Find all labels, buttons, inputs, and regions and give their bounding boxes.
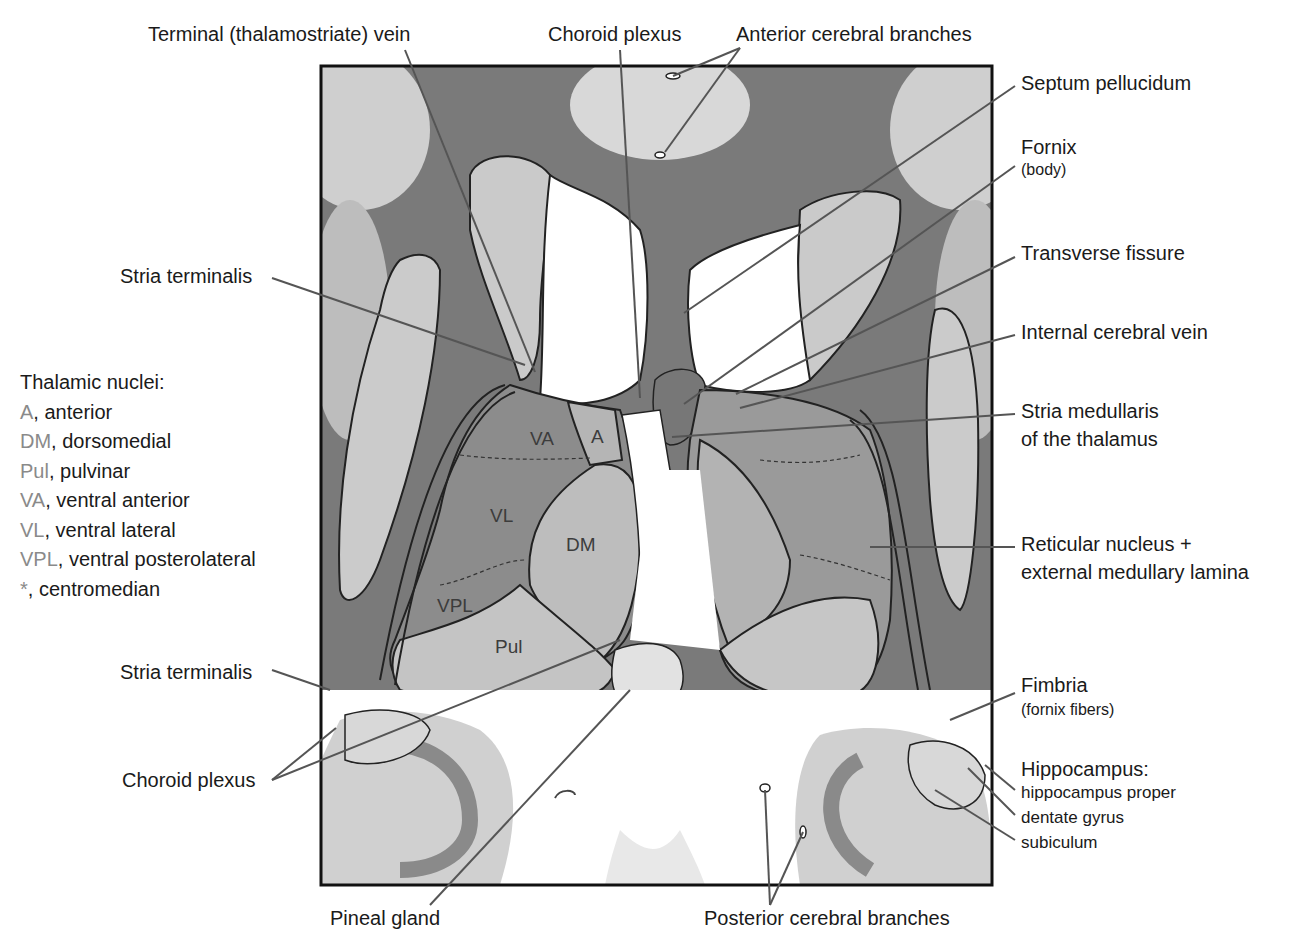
label-hippocampus: Hippocampus: (1021, 757, 1149, 781)
label-posterior-cerebral-branches: Posterior cerebral branches (704, 906, 950, 930)
label-subiculum: subiculum (1021, 833, 1098, 853)
label-reticular-2: external medullary lamina (1021, 560, 1249, 584)
legend-item-va: VA, ventral anterior (20, 486, 256, 516)
label-stria-terminalis-lower: Stria terminalis (120, 660, 252, 684)
label-pineal-gland: Pineal gland (330, 906, 440, 930)
legend-item-vpl: VPL, ventral posterolateral (20, 545, 256, 575)
label-terminal-vein: Terminal (thalamostriate) vein (148, 22, 410, 46)
anatomy-figure: VA A VL DM VPL Pul Terminal (thalamostri… (0, 0, 1306, 944)
label-hippocampus-proper: hippocampus proper (1021, 783, 1176, 803)
label-stria-medullaris-2: of the thalamus (1021, 427, 1158, 451)
thalamic-nuclei-legend: Thalamic nuclei: A, anterior DM, dorsome… (20, 368, 256, 604)
label-septum-pellucidum: Septum pellucidum (1021, 71, 1191, 95)
label-fornix: Fornix (1021, 135, 1077, 159)
nucleus-label-vpl: VPL (437, 595, 473, 617)
label-internal-cerebral-vein: Internal cerebral vein (1021, 320, 1208, 344)
legend-item-vl: VL, ventral lateral (20, 516, 256, 546)
label-fimbria-sub: (fornix fibers) (1021, 700, 1114, 720)
legend-item-a: A, anterior (20, 398, 256, 428)
legend-item-pul: Pul, pulvinar (20, 457, 256, 487)
label-dentate-gyrus: dentate gyrus (1021, 808, 1124, 828)
label-anterior-cerebral-branches: Anterior cerebral branches (736, 22, 972, 46)
nucleus-label-va: VA (530, 428, 554, 450)
legend-item-centromedian: *, centromedian (20, 575, 256, 605)
nucleus-label-vl: VL (490, 505, 513, 527)
legend-item-dm: DM, dorsomedial (20, 427, 256, 457)
label-stria-terminalis-upper: Stria terminalis (120, 264, 252, 288)
nucleus-label-dm: DM (566, 534, 596, 556)
label-stria-medullaris-1: Stria medullaris (1021, 399, 1159, 423)
label-fimbria: Fimbria (1021, 673, 1088, 697)
label-transverse-fissure: Transverse fissure (1021, 241, 1185, 265)
label-choroid-plexus-lower: Choroid plexus (122, 768, 255, 792)
label-reticular-1: Reticular nucleus + (1021, 532, 1192, 556)
nucleus-label-a: A (591, 426, 604, 448)
legend-title: Thalamic nuclei: (20, 368, 256, 398)
label-choroid-plexus-top: Choroid plexus (548, 22, 681, 46)
nucleus-label-pul: Pul (495, 636, 522, 658)
label-fornix-sub: (body) (1021, 160, 1066, 180)
